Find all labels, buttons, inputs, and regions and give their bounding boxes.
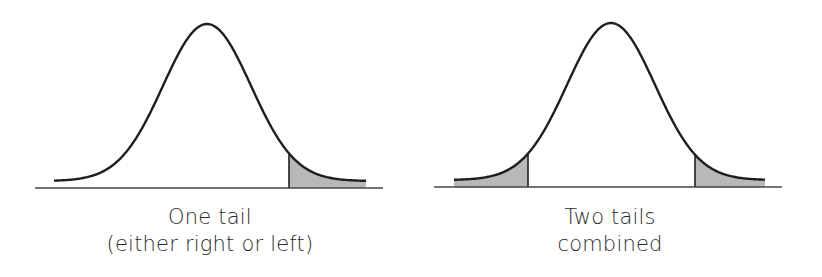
shaded-tail-region [454, 154, 528, 188]
shaded-tail-region [695, 155, 765, 187]
one-tail-caption-line2: (either right or left) [60, 231, 360, 258]
two-tails-caption: Two tails combined [460, 204, 760, 258]
two-tails-caption-line2: combined [460, 231, 760, 258]
one-tail-caption-line1: One tail [60, 204, 360, 231]
one-tail-caption: One tail (either right or left) [60, 204, 360, 258]
one-tail-distribution [35, 24, 383, 188]
two-tails-caption-line1: Two tails [460, 204, 760, 231]
bell-curve [454, 23, 765, 180]
two-tails-distribution [434, 23, 782, 187]
bell-curve [54, 24, 366, 181]
shaded-tail-region [289, 153, 366, 188]
